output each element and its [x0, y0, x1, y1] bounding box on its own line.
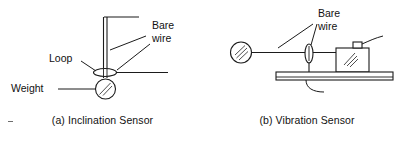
loop-label: Loop: [49, 52, 73, 64]
bare-wire-label-line1: Bare: [318, 7, 340, 19]
bare-wire-label-line2: wire: [317, 20, 337, 32]
caption-inclination-sensor: (a) Inclination Sensor: [0, 114, 205, 126]
bare-wire-leader-upper: [110, 36, 146, 50]
terminal-tab-leader: [362, 36, 383, 44]
mounting-plate: [276, 72, 393, 80]
loop-ellipse: [94, 69, 117, 77]
anchor-disc: [231, 42, 252, 63]
inclination-sensor-drawing: Bare wire Loop Weight: [0, 0, 205, 112]
caption-vibration-sensor: (b) Vibration Sensor: [205, 114, 409, 126]
weight-disc: [96, 79, 116, 99]
loop-leader-line: [81, 61, 96, 71]
figure-page: Bare wire Loop Weight (a) Inclination Se…: [0, 0, 409, 144]
scan-artifact-mark: [8, 121, 13, 122]
block-terminal-tab: [353, 42, 362, 48]
panel-vibration-sensor: Bare wire (b) Vibration Sensor: [205, 0, 409, 144]
bare-wire-leader-lower: [117, 44, 150, 70]
vibration-sensor-drawing: Bare wire: [205, 0, 409, 112]
plate-leader: [306, 80, 324, 92]
weight-label: Weight: [11, 82, 44, 94]
panel-inclination-sensor: Bare wire Loop Weight (a) Inclination Se…: [0, 0, 205, 144]
bare-wire-label-line2: wire: [151, 32, 171, 44]
bare-wire-label-line1: Bare: [152, 19, 174, 31]
bare-wire-leader-right: [311, 24, 317, 45]
